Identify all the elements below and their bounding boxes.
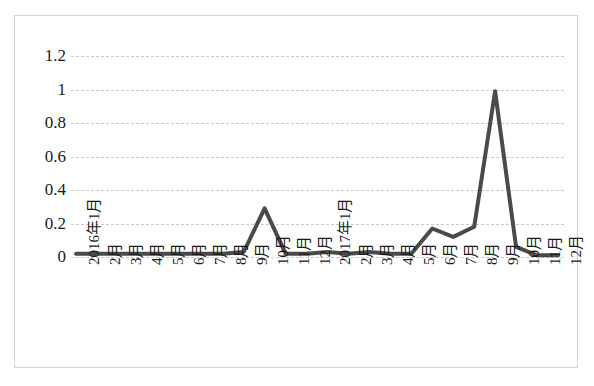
x-tick-label: 2月 — [103, 243, 124, 266]
x-tick-label: 3月 — [375, 243, 396, 266]
x-tick-label: 5月 — [417, 243, 438, 266]
x-tick-label: 8月 — [480, 243, 501, 266]
x-tick-label: 5月 — [166, 243, 187, 266]
x-tick-label: 4月 — [145, 243, 166, 266]
x-tick-label: 2月 — [354, 243, 375, 266]
x-tick-label: 2017年1月 — [333, 198, 354, 266]
x-axis: 2016年1月2月3月4月5月6月7月8月9月10月11月12月2017年1月2… — [0, 0, 594, 386]
x-tick-label: 2016年1月 — [82, 198, 103, 266]
x-tick-label: 10月 — [271, 235, 292, 265]
x-tick-label: 7月 — [459, 243, 480, 266]
x-tick-label: 9月 — [250, 243, 271, 266]
x-tick-label: 12月 — [564, 235, 585, 265]
x-tick-label: 11月 — [543, 236, 564, 265]
x-tick-label: 7月 — [208, 243, 229, 266]
chart-plot-area: 00.20.40.60.811.2 2016年1月2月3月4月5月6月7月8月9… — [0, 0, 594, 386]
x-tick-label: 3月 — [124, 243, 145, 266]
x-tick-label: 6月 — [187, 243, 208, 266]
x-tick-label: 9月 — [501, 243, 522, 266]
x-tick-label: 10月 — [522, 235, 543, 265]
x-tick-label: 11月 — [292, 236, 313, 265]
x-tick-label: 6月 — [438, 243, 459, 266]
x-tick-label: 8月 — [229, 243, 250, 266]
x-tick-label: 12月 — [313, 235, 334, 265]
x-tick-label: 4月 — [396, 243, 417, 266]
